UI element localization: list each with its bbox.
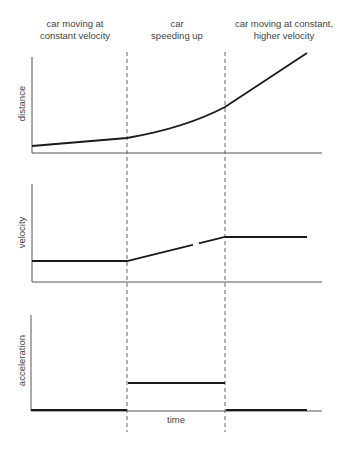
distance-y-label: distance — [16, 74, 27, 134]
velocity-curve — [32, 237, 307, 261]
graphs-svg — [0, 0, 340, 450]
motion-graphs-diagram: car moving at constant velocity car spee… — [0, 0, 340, 450]
distance-curve — [32, 53, 307, 146]
acceleration-y-label: acceleration — [16, 316, 27, 406]
velocity-glitch — [193, 244, 199, 246]
acceleration-panel — [31, 315, 322, 411]
velocity-panel — [32, 184, 322, 282]
velocity-y-label: velocity — [16, 203, 27, 263]
distance-panel — [32, 53, 322, 153]
time-x-label: time — [156, 414, 196, 425]
